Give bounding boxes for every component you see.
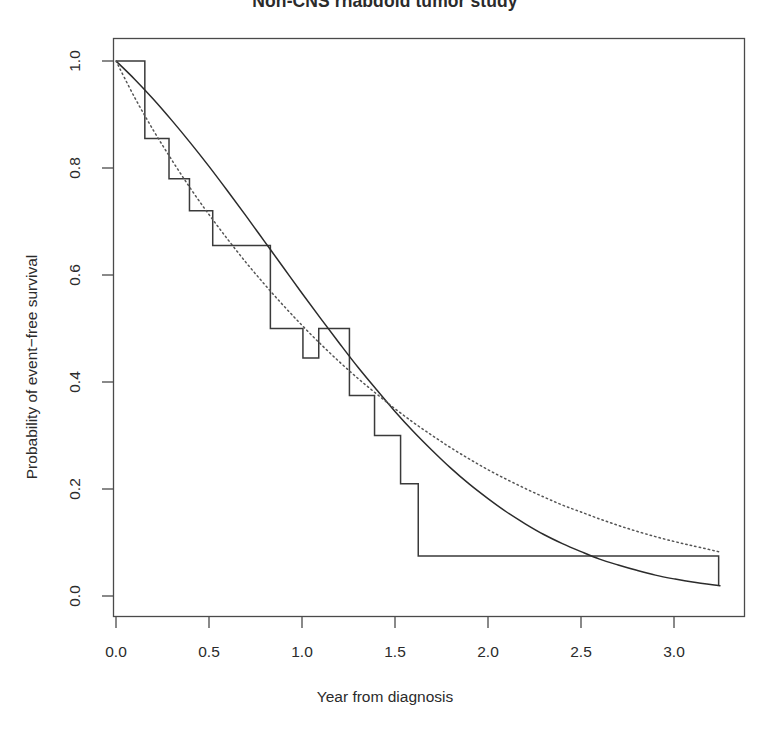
x-axis-ticks xyxy=(116,617,674,628)
y-tick-label: 0.4 xyxy=(66,362,84,402)
y-axis-title: Probability of event−free survival xyxy=(14,0,50,734)
data-series-group xyxy=(116,61,721,586)
axis-box xyxy=(114,39,745,617)
x-tick-label: 3.0 xyxy=(644,643,704,661)
plot-area xyxy=(0,0,770,734)
y-tick-label: 0.6 xyxy=(66,255,84,295)
y-tick-label: 0.8 xyxy=(66,148,84,188)
x-tick-label: 0.0 xyxy=(86,643,146,661)
chart-title: Non-CNS rhabdoid tumor study xyxy=(0,0,770,12)
x-tick-label: 1.0 xyxy=(272,643,332,661)
x-tick-label: 2.0 xyxy=(458,643,518,661)
y-tick-label: 1.0 xyxy=(66,41,84,81)
y-axis-ticks xyxy=(102,61,113,596)
dotted-model-curve xyxy=(116,61,721,552)
survival-chart-figure: Non-CNS rhabdoid tumor study 0.00.51.01.… xyxy=(0,0,770,734)
x-tick-label: 0.5 xyxy=(179,643,239,661)
x-tick-label: 1.5 xyxy=(365,643,425,661)
km-step-curve xyxy=(116,61,719,585)
x-tick-label: 2.5 xyxy=(551,643,611,661)
y-tick-label: 0.0 xyxy=(66,576,84,616)
y-tick-label: 0.2 xyxy=(66,469,84,509)
x-axis-title: Year from diagnosis xyxy=(0,688,770,706)
